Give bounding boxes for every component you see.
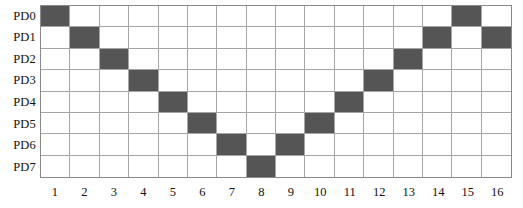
grid-cell-pd4-10[interactable] xyxy=(305,92,334,113)
grid-cell-pd5-14[interactable] xyxy=(423,113,452,134)
grid-cell-pd5-4[interactable] xyxy=(129,113,158,134)
grid-cell-pd1-9[interactable] xyxy=(276,27,305,48)
grid-cell-pd6-11[interactable] xyxy=(335,134,364,155)
grid-cell-pd7-13[interactable] xyxy=(394,156,423,177)
grid-cell-pd7-10[interactable] xyxy=(305,156,334,177)
grid-cell-pd4-2[interactable] xyxy=(70,92,99,113)
grid-cell-pd1-4[interactable] xyxy=(129,27,158,48)
grid-cell-pd6-6[interactable] xyxy=(188,134,217,155)
grid-cell-pd7-6[interactable] xyxy=(188,156,217,177)
grid-cell-pd0-5[interactable] xyxy=(159,6,188,27)
grid-cell-pd4-16[interactable] xyxy=(482,92,511,113)
grid-cell-pd1-10[interactable] xyxy=(305,27,334,48)
grid-cell-pd3-12[interactable] xyxy=(364,70,393,91)
grid-cell-pd6-5[interactable] xyxy=(159,134,188,155)
grid-cell-pd4-12[interactable] xyxy=(364,92,393,113)
grid-cell-pd0-14[interactable] xyxy=(423,6,452,27)
grid-cell-pd4-7[interactable] xyxy=(217,92,246,113)
grid-cell-pd7-8[interactable] xyxy=(247,156,276,177)
grid-cell-pd0-16[interactable] xyxy=(482,6,511,27)
grid-cell-pd5-9[interactable] xyxy=(276,113,305,134)
grid-cell-pd2-8[interactable] xyxy=(247,49,276,70)
grid-cell-pd4-3[interactable] xyxy=(100,92,129,113)
grid-cell-pd2-3[interactable] xyxy=(100,49,129,70)
grid-cell-pd1-8[interactable] xyxy=(247,27,276,48)
grid-cell-pd7-15[interactable] xyxy=(452,156,481,177)
grid-cell-pd4-15[interactable] xyxy=(452,92,481,113)
grid-cell-pd0-3[interactable] xyxy=(100,6,129,27)
grid-cell-pd4-13[interactable] xyxy=(394,92,423,113)
grid-cell-pd5-2[interactable] xyxy=(70,113,99,134)
grid-cell-pd1-7[interactable] xyxy=(217,27,246,48)
grid-cell-pd0-12[interactable] xyxy=(364,6,393,27)
grid-cell-pd0-11[interactable] xyxy=(335,6,364,27)
grid-cell-pd4-6[interactable] xyxy=(188,92,217,113)
grid-cell-pd4-1[interactable] xyxy=(41,92,70,113)
grid-cell-pd1-13[interactable] xyxy=(394,27,423,48)
grid-cell-pd1-12[interactable] xyxy=(364,27,393,48)
grid-cell-pd3-3[interactable] xyxy=(100,70,129,91)
grid-cell-pd4-14[interactable] xyxy=(423,92,452,113)
grid-cell-pd4-4[interactable] xyxy=(129,92,158,113)
grid-cell-pd5-12[interactable] xyxy=(364,113,393,134)
grid-cell-pd2-11[interactable] xyxy=(335,49,364,70)
grid-cell-pd3-11[interactable] xyxy=(335,70,364,91)
grid-cell-pd7-14[interactable] xyxy=(423,156,452,177)
grid-cell-pd6-12[interactable] xyxy=(364,134,393,155)
grid-cell-pd3-4[interactable] xyxy=(129,70,158,91)
grid-cell-pd2-14[interactable] xyxy=(423,49,452,70)
grid-cell-pd1-3[interactable] xyxy=(100,27,129,48)
grid-cell-pd1-11[interactable] xyxy=(335,27,364,48)
grid-cell-pd5-7[interactable] xyxy=(217,113,246,134)
grid-cell-pd0-7[interactable] xyxy=(217,6,246,27)
grid-cell-pd1-14[interactable] xyxy=(423,27,452,48)
grid-cell-pd7-16[interactable] xyxy=(482,156,511,177)
grid-cell-pd1-16[interactable] xyxy=(482,27,511,48)
grid-cell-pd7-4[interactable] xyxy=(129,156,158,177)
grid-cell-pd2-13[interactable] xyxy=(394,49,423,70)
grid-cell-pd6-7[interactable] xyxy=(217,134,246,155)
grid-cell-pd5-16[interactable] xyxy=(482,113,511,134)
grid-cell-pd4-9[interactable] xyxy=(276,92,305,113)
grid-cell-pd5-15[interactable] xyxy=(452,113,481,134)
grid-cell-pd7-7[interactable] xyxy=(217,156,246,177)
grid-cell-pd1-1[interactable] xyxy=(41,27,70,48)
grid-cell-pd6-15[interactable] xyxy=(452,134,481,155)
grid-cell-pd2-4[interactable] xyxy=(129,49,158,70)
grid-cell-pd5-11[interactable] xyxy=(335,113,364,134)
grid-cell-pd7-1[interactable] xyxy=(41,156,70,177)
grid-cell-pd3-16[interactable] xyxy=(482,70,511,91)
grid-cell-pd3-7[interactable] xyxy=(217,70,246,91)
grid-cell-pd1-2[interactable] xyxy=(70,27,99,48)
grid-cell-pd0-2[interactable] xyxy=(70,6,99,27)
grid-cell-pd3-13[interactable] xyxy=(394,70,423,91)
grid-cell-pd3-14[interactable] xyxy=(423,70,452,91)
grid-cell-pd6-16[interactable] xyxy=(482,134,511,155)
grid-cell-pd5-13[interactable] xyxy=(394,113,423,134)
grid-cell-pd0-4[interactable] xyxy=(129,6,158,27)
grid-cell-pd3-1[interactable] xyxy=(41,70,70,91)
grid-cell-pd0-13[interactable] xyxy=(394,6,423,27)
grid-cell-pd2-5[interactable] xyxy=(159,49,188,70)
grid-cell-pd2-12[interactable] xyxy=(364,49,393,70)
grid-cell-pd7-12[interactable] xyxy=(364,156,393,177)
grid-cell-pd6-1[interactable] xyxy=(41,134,70,155)
grid-cell-pd5-5[interactable] xyxy=(159,113,188,134)
grid-cell-pd4-11[interactable] xyxy=(335,92,364,113)
grid-cell-pd5-10[interactable] xyxy=(305,113,334,134)
grid-cell-pd2-1[interactable] xyxy=(41,49,70,70)
grid-cell-pd5-3[interactable] xyxy=(100,113,129,134)
grid-cell-pd7-3[interactable] xyxy=(100,156,129,177)
grid-cell-pd2-7[interactable] xyxy=(217,49,246,70)
grid-cell-pd6-14[interactable] xyxy=(423,134,452,155)
grid-cell-pd3-6[interactable] xyxy=(188,70,217,91)
grid-cell-pd6-3[interactable] xyxy=(100,134,129,155)
grid-cell-pd3-9[interactable] xyxy=(276,70,305,91)
grid-cell-pd3-15[interactable] xyxy=(452,70,481,91)
grid-cell-pd6-4[interactable] xyxy=(129,134,158,155)
grid-cell-pd7-9[interactable] xyxy=(276,156,305,177)
grid-cell-pd0-10[interactable] xyxy=(305,6,334,27)
grid-cell-pd1-6[interactable] xyxy=(188,27,217,48)
grid-cell-pd0-9[interactable] xyxy=(276,6,305,27)
grid-cell-pd6-8[interactable] xyxy=(247,134,276,155)
